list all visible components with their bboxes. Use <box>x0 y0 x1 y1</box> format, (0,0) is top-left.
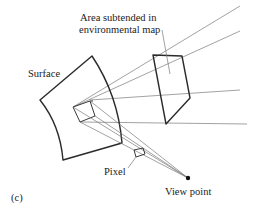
environment-map-area <box>153 55 190 124</box>
pixel-leader-line <box>128 157 136 168</box>
pixel-label: Pixel <box>104 166 126 178</box>
reflection-mapping-diagram: Area subtended in environmental map Surf… <box>0 0 258 219</box>
area-label-line2: environmental map <box>79 24 160 36</box>
view-point-dot <box>186 176 190 180</box>
area-label-line1: Area subtended in <box>80 12 156 24</box>
view-rays <box>73 101 188 178</box>
view-point-label: View point <box>165 186 211 198</box>
surface-label: Surface <box>28 68 60 80</box>
area-leader-line <box>162 30 170 74</box>
panel-label: (c) <box>11 192 23 204</box>
